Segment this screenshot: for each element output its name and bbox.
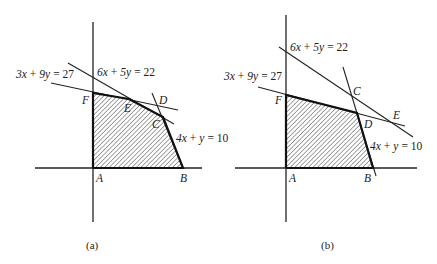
vertex-e-a: E: [123, 102, 131, 114]
panel-b: 6x+5y= 22 3x+9y= 27 4x+y= 10 A B C D E F…: [223, 15, 423, 252]
label-6x5y-a: 6x+5y= 22: [97, 66, 155, 79]
label-3x9y-a: 3x+9y= 27: [15, 68, 74, 81]
vertex-b-b: B: [364, 172, 371, 184]
vertex-c-a: C: [152, 118, 160, 130]
label-4xy-b: 4x+y= 10: [370, 140, 423, 153]
caption-a: (a): [86, 239, 99, 252]
label-3x9y-b: 3x+9y= 27: [223, 70, 282, 83]
vertex-a-a: A: [95, 172, 104, 184]
panel-a: 3x+9y= 27 6x+5y= 22 4x+y= 10 A B C D E F…: [15, 22, 229, 252]
vertex-f-a: F: [81, 94, 90, 106]
vertex-d-a: D: [158, 94, 168, 106]
vertex-c-b: C: [353, 85, 361, 97]
linear-programming-figure: 3x+9y= 27 6x+5y= 22 4x+y= 10 A B C D E F…: [0, 0, 437, 264]
vertex-b-a: B: [180, 172, 187, 184]
vertex-d-b: D: [363, 118, 373, 130]
label-4xy-a: 4x+y= 10: [176, 132, 229, 145]
vertex-e-b: E: [392, 109, 400, 121]
caption-b: (b): [321, 239, 334, 252]
vertex-f-b: F: [274, 94, 283, 106]
vertex-a-b: A: [288, 172, 297, 184]
label-6x5y-b: 6x+5y= 22: [290, 41, 348, 54]
